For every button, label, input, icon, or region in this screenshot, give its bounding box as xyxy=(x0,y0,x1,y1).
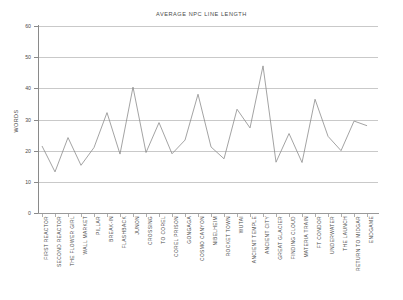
x-tick-label: CROSSING xyxy=(148,216,153,245)
gridline xyxy=(38,57,378,58)
x-tick-mark xyxy=(146,214,147,217)
x-tick-label: MATERIA TRAIN xyxy=(304,216,309,258)
x-tick-mark xyxy=(367,214,368,217)
chart-title: AVERAGE NPC LINE LENGTH xyxy=(0,11,403,17)
x-tick-mark xyxy=(302,214,303,217)
chart-container: AVERAGE NPC LINE LENGTH WORDS 0102030405… xyxy=(0,0,403,300)
x-tick-label: UNDERWATER xyxy=(330,216,335,254)
x-tick-mark xyxy=(328,214,329,217)
x-tick-mark xyxy=(185,214,186,217)
x-tick-mark xyxy=(68,214,69,217)
y-tick-label: 60 xyxy=(5,23,31,29)
x-tick-label: RETURN TO MIDGAR xyxy=(356,216,361,271)
x-tick-label: THE FLOWER GIRL xyxy=(70,216,75,266)
x-tick-label: FT CONDOR xyxy=(317,216,322,248)
x-tick-label: JUNON xyxy=(135,216,140,235)
gridline xyxy=(38,151,378,152)
x-tick-label: FINDING CLOUD xyxy=(291,216,296,259)
gridline xyxy=(38,182,378,183)
x-tick-mark xyxy=(224,214,225,217)
x-tick-label: COSMO CANYON xyxy=(200,216,205,261)
x-tick-mark xyxy=(159,214,160,217)
x-tick-mark xyxy=(341,214,342,217)
x-tick-mark xyxy=(42,214,43,217)
x-tick-mark xyxy=(94,214,95,217)
x-tick-mark xyxy=(120,214,121,217)
x-tick-label: WUTAI xyxy=(239,216,244,233)
x-tick-label: FIRST REACTOR xyxy=(44,216,49,260)
y-tick-label: 0 xyxy=(5,210,31,216)
x-tick-label: ANCIENT CITY xyxy=(265,216,270,254)
x-tick-label: COREL PRISON xyxy=(174,216,179,257)
x-tick-label: GREAT GLACIER xyxy=(278,216,283,260)
x-tick-label: THE LAUNCH xyxy=(343,216,348,251)
x-tick-mark xyxy=(276,214,277,217)
x-tick-label: ROCKET TOWN xyxy=(226,216,231,256)
gridline xyxy=(38,120,378,121)
x-tick-mark xyxy=(289,214,290,217)
x-tick-mark xyxy=(133,214,134,217)
y-tick-label: 10 xyxy=(5,179,31,185)
x-tick-mark xyxy=(211,214,212,217)
gridline xyxy=(38,26,378,27)
x-tick-mark xyxy=(55,214,56,217)
gridline xyxy=(38,88,378,89)
x-tick-mark xyxy=(250,214,251,217)
y-axis-line xyxy=(38,25,39,214)
x-tick-label: ENDGAME xyxy=(369,216,374,243)
x-tick-label: ANCIENT TEMPLE xyxy=(252,216,257,263)
y-tick-label: 50 xyxy=(5,54,31,60)
y-tick-label: 20 xyxy=(5,148,31,154)
x-tick-label: NIBELHEIM xyxy=(213,216,218,246)
x-tick-mark xyxy=(354,214,355,217)
x-tick-mark xyxy=(198,214,199,217)
x-tick-label: PILLAR xyxy=(96,216,101,235)
x-tick-label: BREAK-IN xyxy=(109,216,114,242)
y-tick-label: 30 xyxy=(5,117,31,123)
y-tick-label: 40 xyxy=(5,85,31,91)
x-tick-mark xyxy=(315,214,316,217)
x-tick-label: SECOND REACTOR xyxy=(57,216,62,267)
x-tick-mark xyxy=(263,214,264,217)
x-tick-mark xyxy=(81,214,82,217)
x-tick-mark xyxy=(237,214,238,217)
x-tick-label: FLASHBACK xyxy=(122,216,127,248)
x-tick-label: WALL MARKET xyxy=(83,216,88,255)
x-tick-label: TO COREL xyxy=(161,216,166,244)
x-tick-label: GONGAGA xyxy=(187,216,192,244)
x-tick-mark xyxy=(172,214,173,217)
x-tick-mark xyxy=(107,214,108,217)
